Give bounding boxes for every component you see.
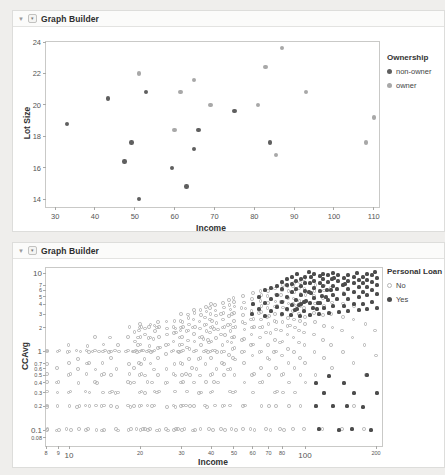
legend-item-No[interactable]: No (387, 281, 445, 290)
data-point-No (45, 349, 49, 353)
data-point-No (253, 428, 257, 432)
data-point-Yes (295, 272, 299, 276)
data-point-No (304, 293, 308, 297)
data-point-Yes (357, 308, 361, 312)
data-point-No (166, 381, 170, 385)
data-point-Yes (373, 270, 377, 274)
y-tick-mark (43, 296, 46, 297)
data-point-No (280, 354, 284, 358)
data-point-Yes (331, 404, 335, 408)
data-point-No (228, 303, 232, 307)
data-point-No (215, 350, 219, 354)
legend-marker-icon (387, 283, 392, 288)
data-point-No (210, 340, 214, 344)
data-point-No (176, 427, 180, 431)
ccavg-income-scatter-plot[interactable]: 8910203040506070801002001076543210.70.60… (45, 267, 383, 447)
data-point-Yes (317, 427, 321, 431)
data-point-No (232, 300, 236, 304)
data-point-No (152, 337, 156, 341)
data-point-No (199, 391, 203, 395)
data-point-non-owner (65, 122, 69, 126)
disclosure-triangle-icon[interactable]: ▼ (18, 248, 24, 254)
data-point-No (266, 343, 270, 347)
data-point-Yes (290, 282, 294, 286)
legend-item-owner[interactable]: owner (387, 81, 445, 90)
data-point-No (146, 380, 150, 384)
data-point-No (76, 357, 80, 361)
data-point-No (242, 301, 246, 305)
data-point-Yes (285, 277, 289, 281)
data-point-No (157, 335, 161, 339)
data-point-Yes (322, 306, 326, 310)
data-point-No (233, 358, 237, 362)
data-point-No (102, 372, 106, 376)
data-point-No (149, 323, 153, 327)
data-point-No (77, 427, 81, 431)
data-point-No (312, 333, 316, 337)
disclosure-triangle-icon[interactable]: ▼ (18, 16, 24, 22)
data-point-No (252, 317, 256, 321)
collapse-button-icon[interactable]: ▾ (28, 246, 37, 255)
data-point-No (152, 368, 156, 372)
data-point-No (69, 428, 73, 432)
data-point-No (211, 372, 215, 376)
data-point-No (199, 427, 203, 431)
data-point-No (143, 357, 147, 361)
data-point-No (102, 428, 106, 432)
data-point-Yes (343, 282, 347, 286)
data-point-No (76, 367, 80, 371)
data-point-Yes (331, 271, 335, 275)
data-point-No (293, 391, 297, 395)
data-point-No (45, 362, 49, 366)
data-point-No (260, 350, 264, 354)
x-tick-mark (252, 446, 253, 449)
x-tick-mark (211, 446, 212, 449)
data-point-No (243, 328, 247, 332)
data-point-No (313, 320, 317, 324)
y-tick-label: 0.3 (20, 390, 42, 396)
data-point-No (55, 366, 59, 370)
data-point-Yes (290, 290, 294, 294)
data-point-non-owner (192, 147, 196, 151)
y-tick-mark (43, 199, 46, 200)
x-tick-label: 100 (291, 451, 319, 460)
data-point-No (251, 343, 255, 347)
data-point-Yes (331, 304, 335, 308)
data-point-Yes (325, 288, 329, 292)
data-point-Yes (329, 288, 333, 292)
data-point-No (79, 350, 83, 354)
data-point-No (202, 337, 206, 341)
data-point-Yes (375, 283, 379, 287)
data-point-No (195, 367, 199, 371)
legend-item-non-owner[interactable]: non-owner (387, 67, 445, 76)
data-point-No (267, 373, 271, 377)
y-tick-label: 4 (20, 301, 42, 307)
y-tick-label: 0.1 (20, 426, 42, 435)
data-point-No (216, 328, 220, 332)
data-point-No (304, 381, 308, 385)
x-tick-label: 20 (126, 450, 154, 456)
data-point-No (56, 404, 60, 408)
data-point-No (143, 374, 147, 378)
panel-header: ▼ ▾ Graph Builder (13, 11, 444, 27)
data-point-No (165, 320, 169, 324)
collapse-button-icon[interactable]: ▾ (28, 14, 37, 23)
data-point-No (232, 296, 236, 300)
data-point-No (233, 373, 237, 377)
data-point-Yes (295, 307, 299, 311)
data-point-No (153, 404, 157, 408)
y-tick-mark (43, 368, 46, 369)
y-axis-label: CCAvg (20, 336, 30, 376)
legend-item-Yes[interactable]: Yes (387, 295, 445, 304)
lotsize-income-scatter-plot[interactable]: 30405060708090100110242220181614 (45, 41, 380, 208)
data-point-No (46, 427, 50, 431)
y-tick-mark (43, 136, 46, 137)
data-point-No (287, 361, 291, 365)
data-point-No (94, 368, 98, 372)
data-point-owner (274, 153, 278, 157)
data-point-Yes (361, 405, 365, 409)
data-point-No (242, 361, 246, 365)
data-point-No (210, 319, 214, 323)
data-point-Yes (346, 279, 350, 283)
data-point-No (264, 331, 268, 335)
